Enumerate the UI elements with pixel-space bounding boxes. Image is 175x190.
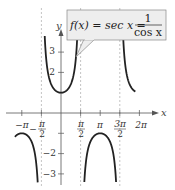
sec-curve-branch bbox=[15, 133, 38, 182]
svg-text:π: π bbox=[38, 119, 46, 129]
sec-curve-branch bbox=[84, 133, 116, 182]
svg-text:2: 2 bbox=[39, 129, 45, 139]
tick-label-y2: 2 bbox=[49, 67, 55, 77]
axes bbox=[6, 29, 159, 185]
svg-text:2: 2 bbox=[78, 129, 84, 139]
svg-text:2: 2 bbox=[117, 129, 123, 139]
x-axis-label: x bbox=[161, 107, 167, 118]
tick-label-yneg2: −2 bbox=[43, 148, 56, 158]
callout-pointer bbox=[76, 39, 95, 57]
tick-label-two-pi: 2π bbox=[134, 120, 148, 130]
x-axis-arrow-icon bbox=[152, 111, 159, 116]
svg-text:3π: 3π bbox=[114, 119, 127, 129]
y-axis-label: y bbox=[55, 20, 62, 31]
callout-denominator: cos x bbox=[134, 26, 163, 39]
sec-curve-branch bbox=[123, 37, 135, 92]
tick-label-neg-pi: −π bbox=[15, 120, 30, 130]
tick-label-yneg3: −3 bbox=[43, 169, 57, 179]
curves bbox=[15, 36, 135, 182]
svg-text:π: π bbox=[77, 119, 85, 129]
tick-label-half-pi: π 2 bbox=[77, 119, 85, 139]
sec-graph: x y −π − π 2 π 2 π 3π 2 2π 3 2 −2 −3 f(x… bbox=[0, 0, 175, 190]
function-callout: f(x) = sec x = 1 cos x bbox=[67, 10, 166, 57]
tick-label-pi: π bbox=[96, 120, 104, 130]
svg-text:−: − bbox=[29, 124, 37, 134]
tick-label-y3: 3 bbox=[49, 46, 55, 56]
tick-label-three-half-pi: 3π 2 bbox=[114, 119, 127, 139]
callout-numerator: 1 bbox=[145, 12, 152, 25]
tick-label-neg-half-pi: − π 2 bbox=[29, 119, 46, 139]
